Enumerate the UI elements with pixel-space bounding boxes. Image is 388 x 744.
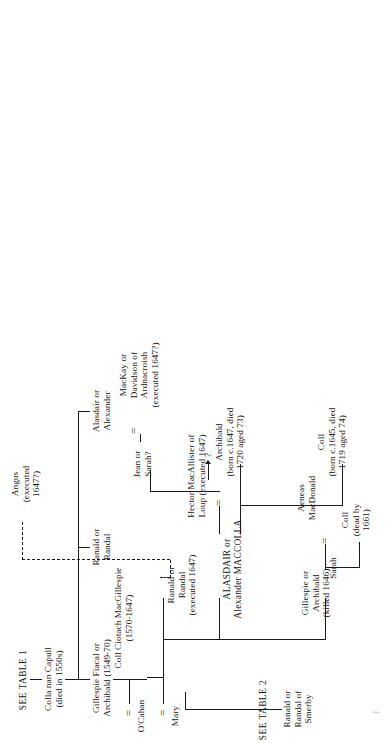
person-gillespie-fiacal: Gillespie Fiacal or Archibald (1549-70) — [91, 628, 112, 728]
person-colla-nan-capull: Colla nan Capull (died in 1550s) — [43, 636, 64, 722]
person-gillespie-archibald-killed: Gillespie or Archibald (killed 1646) — [300, 552, 332, 634]
person-angus: Angus (executed 1647?) — [10, 452, 42, 516]
connector-drop-ranald-randal — [78, 547, 90, 548]
connector-union-to-coll-ciotach — [129, 679, 147, 680]
person-alasdair-alexander: Alasdair or Alexander — [91, 374, 112, 448]
person-jean-or-sarah: Jean or Sarah? — [132, 436, 153, 492]
person-mary: Mary — [170, 690, 181, 742]
connector-alasdair-up-to-jean — [150, 491, 220, 492]
connector-smerby-rise-top — [185, 692, 186, 710]
marriage-equals-alasdair: = — [213, 500, 224, 506]
person-coll-ciotach: Coll Ciotach MacGillespie (1570-1647) — [113, 552, 134, 684]
person-archibald-1647: Archibald (born c.1647, died 1720 aged 7… — [214, 390, 246, 494]
person-sarah: Sarah — [328, 546, 339, 590]
connector-smerby-rise — [185, 709, 282, 710]
marriage-equals-mary-coll: = — [157, 710, 168, 716]
dashed-connector-coll-to-angus-vertical — [22, 559, 170, 560]
pointer-hector-to-unknown — [208, 462, 209, 480]
marriage-line-mary-coll — [163, 678, 164, 704]
connector-drop-alasdair-alexander — [78, 411, 90, 412]
see-table-1-label: SEE TABLE 1 — [18, 640, 29, 720]
marriage-line-jean-mackay — [140, 434, 141, 442]
children-spine-alasdair — [240, 505, 342, 506]
dashed-connector-coll-to-angus-top — [22, 522, 23, 560]
person-coll-dead-1661: Coll (dead by 1661) — [340, 490, 372, 550]
dashed-connector-coll-bottom-tick — [160, 577, 170, 578]
sibling-bar-colla-children — [78, 412, 79, 680]
person-ranald-randal-executed: Ranald or Randal (executed 1647) — [166, 537, 198, 633]
connector-table1-to-colla — [30, 679, 42, 680]
see-table-2-label: SEE TABLE 2 — [258, 662, 269, 744]
person-ocahan: O'Cahan — [136, 686, 147, 744]
connector-drop-gillespie-fiacal — [78, 679, 90, 680]
connector-coll-ciotach-down — [147, 677, 163, 678]
person-aeneas-macdonald: Aeneas MacDonald — [296, 462, 317, 534]
connector-union-to-children-spine — [163, 640, 164, 678]
page-speck: J — [372, 711, 381, 714]
marriage-equals-jean-mackay: = — [128, 428, 139, 434]
marriage-line-alasdair — [219, 506, 220, 534]
dashed-connector-coll-bottom-stub — [170, 560, 171, 578]
person-ranald-randal-smerby: Ranald or Randal of Smerby — [282, 674, 314, 744]
branch-ranald-executed — [163, 598, 164, 640]
marriage-equals-sarah-aeneas: = — [319, 538, 330, 544]
marriage-equals-ocahan-gillespie: = — [123, 710, 134, 716]
connector-colla-descent — [65, 679, 78, 680]
children-spine-coll-ciotach — [163, 639, 325, 640]
person-unknown-child: ? — [203, 448, 214, 462]
person-hector-macallister: Hector MacAllister of Loup (executed 164… — [186, 420, 207, 532]
connector-alasdair-to-children-spine — [240, 506, 241, 534]
person-ranald-randal: Ranald or Randal — [91, 511, 112, 583]
person-coll-1645: Coll (born c.1645, died 1719 aged 74) — [316, 390, 348, 494]
connector-sarah-aeneas-descent — [325, 567, 359, 568]
branch-alasdair-maccolla — [219, 598, 220, 640]
person-mackay-davidson: MacKay or Davidson of Ardnacroish (execu… — [118, 332, 160, 418]
